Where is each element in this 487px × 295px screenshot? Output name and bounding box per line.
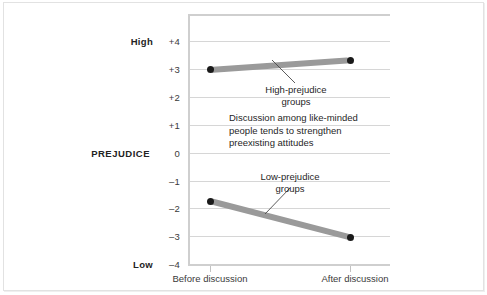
leader-line-low-prejudice <box>0 0 487 295</box>
plot-area: +4 +3 +2 +1 0 –1 –2 –3 –4 High Low PREJU… <box>0 0 487 295</box>
callout-low-prejudice: Low-prejudice groups <box>230 171 350 194</box>
chart-figure: +4 +3 +2 +1 0 –1 –2 –3 –4 High Low PREJU… <box>0 0 487 295</box>
x-tick-label-before: Before discussion <box>150 273 270 284</box>
callout-low-prejudice-line1: Low-prejudice <box>230 171 350 183</box>
callout-low-prejudice-line2: groups <box>230 183 350 195</box>
x-tick-label-after: After discussion <box>295 273 415 284</box>
